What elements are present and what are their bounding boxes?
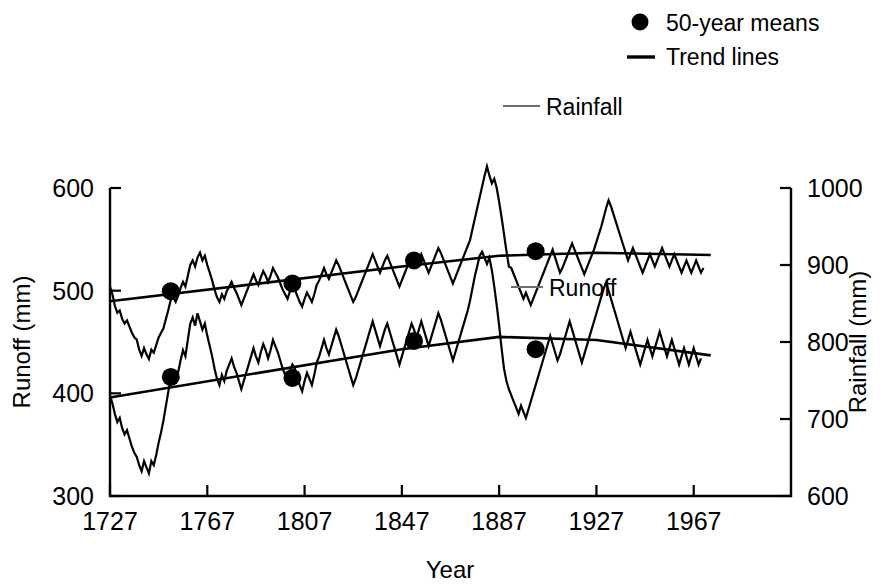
chart-background — [0, 0, 891, 588]
y-tick-label-right: 700 — [807, 405, 849, 433]
legend-means-label: 50-year means — [666, 10, 819, 36]
y-tick-label-left: 500 — [52, 277, 94, 305]
x-tick-label: 1927 — [569, 507, 625, 535]
legend-trend-label: Trend lines — [666, 44, 779, 70]
fifty-year-mean-dot — [283, 274, 301, 292]
y-axis-left-title: Runoff (mm) — [8, 276, 35, 409]
fifty-year-mean-dot — [162, 368, 180, 386]
y-tick-label-right: 900 — [807, 251, 849, 279]
fifty-year-mean-dot — [527, 340, 545, 358]
rainfall-annotation-label: Rainfall — [546, 94, 623, 120]
chart-root: 1727176718071847188719271967 30040050060… — [0, 0, 891, 588]
y-tick-label-right: 800 — [807, 328, 849, 356]
fifty-year-mean-dot — [405, 251, 423, 269]
y-tick-label-left: 300 — [52, 482, 94, 510]
y-tick-label-left: 600 — [52, 174, 94, 202]
fifty-year-mean-dot — [405, 332, 423, 350]
y-axis-right-title: Rainfall (mm) — [844, 271, 871, 414]
y-tick-label-right: 600 — [807, 482, 849, 510]
x-tick-label: 1727 — [82, 507, 138, 535]
x-tick-label: 1887 — [471, 507, 527, 535]
y-tick-label-right: 1000 — [807, 174, 863, 202]
fifty-year-mean-dot — [527, 242, 545, 260]
x-axis-title: Year — [426, 556, 475, 583]
fifty-year-mean-dot — [283, 369, 301, 387]
runoff-annotation-label: Runoff — [549, 275, 617, 301]
y-tick-label-left: 400 — [52, 379, 94, 407]
x-tick-label: 1967 — [666, 507, 722, 535]
x-tick-label: 1847 — [374, 507, 430, 535]
x-tick-label: 1807 — [277, 507, 333, 535]
legend-means-marker-icon — [632, 14, 649, 31]
fifty-year-mean-dot — [162, 282, 180, 300]
runoff-rainfall-chart: 1727176718071847188719271967 30040050060… — [0, 0, 891, 588]
x-tick-label: 1767 — [179, 507, 235, 535]
